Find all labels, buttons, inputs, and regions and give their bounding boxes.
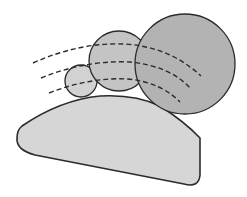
large-circle <box>135 14 235 114</box>
diagram-canvas <box>0 0 247 197</box>
